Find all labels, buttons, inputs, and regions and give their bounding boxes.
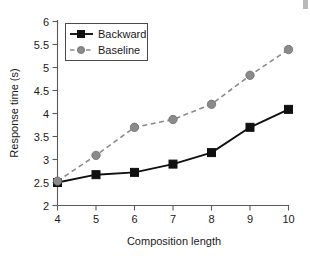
data-point [169, 115, 177, 123]
x-tick-label: 4 [54, 213, 60, 225]
data-point [92, 171, 100, 179]
page-edge-artifact [303, 0, 308, 9]
y-tick-label: 5 [43, 62, 49, 74]
data-point [246, 71, 254, 79]
legend-label-backward: Backward [98, 28, 146, 40]
y-tick-label: 3 [43, 154, 49, 166]
legend-label-baseline: Baseline [98, 44, 140, 56]
data-point [92, 151, 100, 159]
chart-figure: 2 2.5 3 3.5 4 4.5 5 5.5 6 4 5 6 7 8 [0, 0, 310, 256]
data-point [169, 160, 177, 168]
x-tick-label: 8 [208, 213, 214, 225]
y-tick-label: 2.5 [34, 177, 49, 189]
y-tick-label: 4 [43, 108, 49, 120]
chart-legend[interactable]: Backward Baseline [66, 24, 148, 61]
y-axis-title: Response time (s) [8, 68, 20, 157]
data-point [284, 45, 292, 53]
data-point [130, 123, 138, 131]
y-tick-label: 6 [43, 16, 49, 28]
x-axis-title: Composition length [127, 235, 221, 247]
data-point [53, 177, 61, 185]
x-axis-tick-labels: 4 5 6 7 8 9 10 [54, 213, 294, 225]
x-tick-label: 9 [247, 213, 253, 225]
response-time-line-chart: 2 2.5 3 3.5 4 4.5 5 5.5 6 4 5 6 7 8 [0, 0, 310, 256]
x-tick-label: 10 [282, 213, 294, 225]
x-tick-label: 6 [131, 213, 137, 225]
data-point [285, 105, 293, 113]
legend-marker-square [78, 31, 85, 38]
y-tick-label: 2 [43, 200, 49, 212]
data-point [131, 168, 139, 176]
y-axis-tick-labels: 2 2.5 3 3.5 4 4.5 5 5.5 6 [34, 16, 49, 212]
x-tick-label: 7 [170, 213, 176, 225]
y-tick-label: 5.5 [34, 39, 49, 51]
x-tick-label: 5 [93, 213, 99, 225]
data-point [246, 123, 254, 131]
y-tick-label: 4.5 [34, 85, 49, 97]
y-tick-label: 3.5 [34, 131, 49, 143]
data-point [207, 100, 215, 108]
x-axis-ticks [58, 206, 289, 211]
legend-marker-circle [77, 46, 84, 53]
series-layer [53, 45, 292, 186]
data-point [208, 149, 216, 157]
